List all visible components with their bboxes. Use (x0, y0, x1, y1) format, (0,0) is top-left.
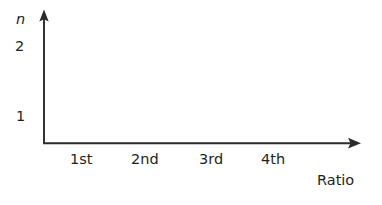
x-tick-label-4th: 4th (261, 152, 285, 167)
x-tick-label-1st: 1st (70, 152, 92, 167)
y-tick-label-2: 2 (15, 39, 24, 54)
x-tick-label-2nd: 2nd (131, 152, 159, 167)
x-tick-label-3rd: 3rd (199, 152, 223, 167)
chart-figure: n 2 1 1st 2nd 3rd 4th Ratio (0, 0, 382, 205)
y-tick-label-1: 1 (16, 109, 25, 124)
x-axis-title: Ratio (317, 173, 354, 188)
y-axis-label: n (16, 12, 25, 27)
